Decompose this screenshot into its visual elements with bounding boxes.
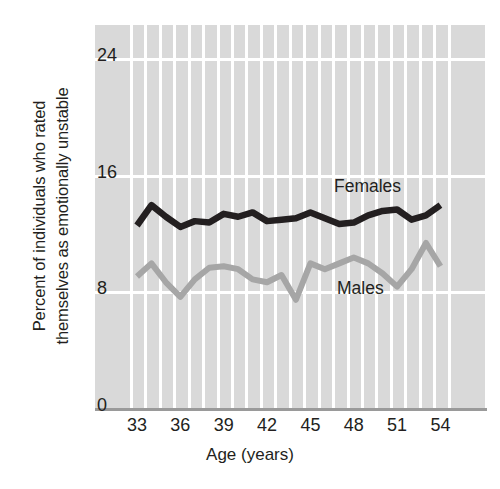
series-label-males: Males [337, 278, 384, 299]
data-lines [0, 0, 500, 489]
series-line-females [137, 205, 440, 227]
chart-figure: Percent of individuals who rated themsel… [0, 0, 500, 489]
series-line-males [137, 243, 440, 300]
series-label-females: Females [334, 176, 401, 197]
